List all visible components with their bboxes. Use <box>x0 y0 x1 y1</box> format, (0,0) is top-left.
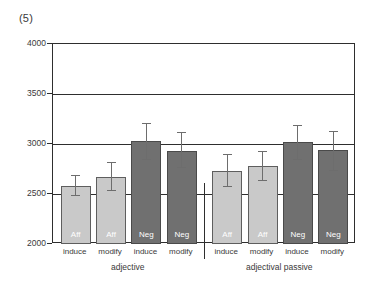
bar: Neg <box>318 150 348 244</box>
group-divider <box>204 183 205 243</box>
gridline <box>53 94 354 95</box>
error-bar-cap-top <box>258 151 267 152</box>
error-bar-cap-top <box>329 131 338 132</box>
x-axis-tick-label: modify <box>321 247 345 256</box>
error-bar-cap-top <box>293 125 302 126</box>
error-bar-cap-top <box>223 154 232 155</box>
bar: Aff <box>248 166 278 244</box>
x-axis-tick-label: induce <box>63 247 87 256</box>
bar: Aff <box>212 171 242 244</box>
y-axis-tick-label: 3500 <box>4 88 46 98</box>
x-axis-tick-label: induce <box>134 247 158 256</box>
x-axis-tick-label: induce <box>214 247 238 256</box>
bar-polarity-label: Neg <box>132 230 160 239</box>
error-bar-cap-top <box>177 132 186 133</box>
error-bar-cap-top <box>107 162 116 163</box>
figure-container: (5) 20002500300035004000 AffAffNegNegAff… <box>0 0 374 287</box>
bar-polarity-label: Aff <box>62 230 90 239</box>
y-axis-tick-label: 3000 <box>4 138 46 148</box>
y-axis-tick <box>47 243 52 244</box>
bar-polarity-label: Neg <box>319 230 347 239</box>
x-axis-group-label: adjective <box>111 262 145 272</box>
bar: Aff <box>61 186 91 244</box>
y-axis-tick-label: 2500 <box>4 188 46 198</box>
x-axis-tick-label: modify <box>98 247 122 256</box>
bar: Neg <box>131 141 161 244</box>
x-axis-group-label: adjectival passive <box>246 262 313 272</box>
y-axis-tick-label: 4000 <box>4 38 46 48</box>
bar: Aff <box>96 177 126 244</box>
group-divider-extension <box>204 243 205 259</box>
bar-polarity-label: Neg <box>168 230 196 239</box>
bar: Neg <box>283 142 313 244</box>
bar-polarity-label: Neg <box>284 230 312 239</box>
x-axis-tick-label: modify <box>250 247 274 256</box>
x-axis-tick-label: induce <box>285 247 309 256</box>
bar-polarity-label: Aff <box>213 230 241 239</box>
bar-polarity-label: Aff <box>97 230 125 239</box>
y-axis-labels: 20002500300035004000 <box>0 0 46 287</box>
y-axis-tick-label: 2000 <box>4 238 46 248</box>
error-bar-cap-top <box>71 175 80 176</box>
bar-polarity-label: Aff <box>249 230 277 239</box>
x-axis-tick-label: modify <box>169 247 193 256</box>
bar: Neg <box>167 151 197 244</box>
error-bar-cap-top <box>142 123 151 124</box>
